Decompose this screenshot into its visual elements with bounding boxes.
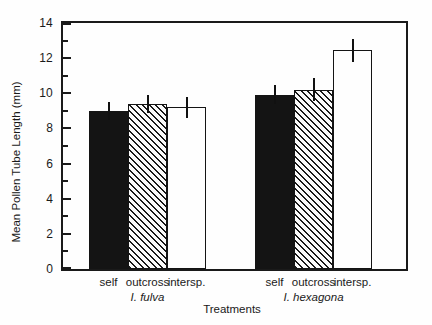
y-major-tick bbox=[63, 163, 71, 165]
x-axis-title: Treatments bbox=[172, 302, 292, 316]
y-major-tick bbox=[63, 233, 71, 235]
y-tick-label: 10 bbox=[27, 86, 53, 100]
y-tick-label: 8 bbox=[27, 121, 53, 135]
y-minor-tick bbox=[63, 40, 68, 42]
x-category-label: intersp. bbox=[155, 276, 219, 289]
y-minor-tick bbox=[63, 250, 68, 252]
y-axis-title-text: Mean Pollen Tube Length (mm) bbox=[9, 81, 23, 242]
y-tick-label: 4 bbox=[27, 192, 53, 206]
error-bar bbox=[147, 95, 149, 113]
y-tick-label: 2 bbox=[27, 227, 53, 241]
y-minor-tick bbox=[63, 215, 68, 217]
error-bar bbox=[108, 102, 110, 120]
y-tick-label: 6 bbox=[27, 157, 53, 171]
error-bar bbox=[274, 85, 276, 104]
bar-intersp-group2 bbox=[333, 50, 372, 269]
y-tick-label: 14 bbox=[27, 16, 53, 30]
group-label: I. hexagona bbox=[259, 291, 369, 304]
y-major-tick bbox=[63, 23, 71, 25]
bar-outcross-group2 bbox=[294, 90, 333, 269]
figure: Mean Pollen Tube Length (mm) Treatments … bbox=[0, 0, 432, 325]
group-label: I. fulva bbox=[93, 291, 203, 304]
error-bar bbox=[352, 39, 354, 62]
bar-outcross-group1 bbox=[128, 104, 167, 269]
y-tick-label: 0 bbox=[27, 262, 53, 276]
y-minor-tick bbox=[63, 75, 68, 77]
y-major-tick bbox=[63, 198, 71, 200]
y-major-tick bbox=[63, 92, 71, 94]
y-minor-tick bbox=[63, 180, 68, 182]
error-bar bbox=[186, 97, 188, 118]
y-major-tick bbox=[63, 127, 71, 129]
plot-area bbox=[61, 21, 408, 271]
y-minor-tick bbox=[63, 145, 68, 147]
y-minor-tick bbox=[63, 110, 68, 112]
bar-intersp-group1 bbox=[167, 107, 206, 269]
bar-self-group1 bbox=[89, 111, 128, 269]
bar-self-group2 bbox=[255, 95, 294, 269]
y-tick-label: 12 bbox=[27, 51, 53, 65]
y-major-tick bbox=[63, 267, 71, 269]
x-category-label: intersp. bbox=[321, 276, 385, 289]
y-major-tick bbox=[63, 57, 71, 59]
error-bar bbox=[313, 78, 315, 101]
